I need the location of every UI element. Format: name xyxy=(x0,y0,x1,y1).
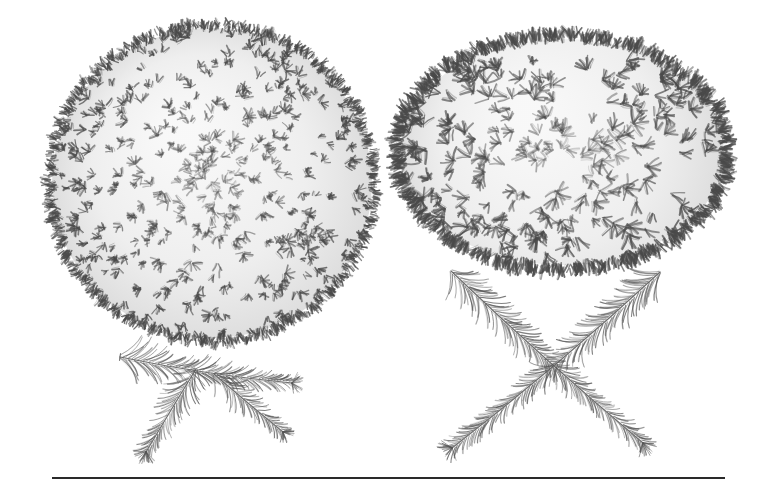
left-branchlet-specimen xyxy=(88,325,324,483)
right-branchlet-specimen xyxy=(420,240,691,479)
baseline-rule xyxy=(52,477,725,479)
left-broom-mass xyxy=(52,28,372,338)
illustration-plate: Pen-and-ink botanical plate showing two … xyxy=(0,0,777,493)
right-broom-mass xyxy=(400,39,724,265)
